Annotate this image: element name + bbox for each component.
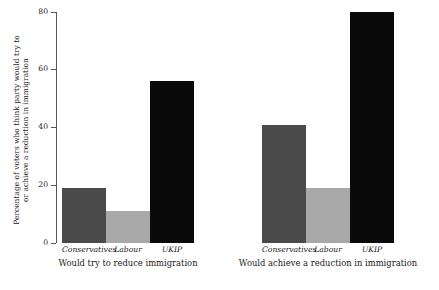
y-axis-tick-label: 60: [38, 64, 48, 73]
bar-ukip-group-2: [350, 12, 394, 243]
y-axis-tick: 40: [51, 127, 56, 128]
x-tick-label-labour-group-1: Labour: [106, 245, 150, 254]
bar-conservatives-group-2: [262, 125, 306, 243]
y-axis-tick-label: 40: [38, 122, 48, 131]
y-axis-title-line-1: Percentage of voters who think party wou…: [12, 35, 21, 224]
group-caption-1: Would try to reduce immigration: [38, 258, 218, 268]
x-tick-label-conservatives-group-1: Conservatives: [62, 245, 106, 254]
group-caption-2: Would achieve a reduction in immigration: [238, 258, 418, 268]
x-tick-label-ukip-group-1: UKIP: [150, 245, 194, 254]
bar-labour-group-1: [106, 211, 150, 243]
y-axis-tick-label: 80: [38, 7, 48, 16]
y-axis-tick: 60: [51, 69, 56, 70]
x-tick-label-ukip-group-2: UKIP: [350, 245, 394, 254]
bar-labour-group-2: [306, 188, 350, 243]
y-axis-tick: 20: [51, 185, 56, 186]
plot-area: [57, 12, 435, 243]
y-axis-tick: 80: [51, 12, 56, 13]
y-axis-title-line-2: or achieve a reduction in immigration: [21, 58, 30, 202]
bar-conservatives-group-1: [62, 188, 106, 243]
y-axis-tick-label: 20: [38, 180, 48, 189]
x-tick-label-labour-group-2: Labour: [306, 245, 350, 254]
bar-ukip-group-1: [150, 81, 194, 243]
x-tick-label-conservatives-group-2: Conservatives: [262, 245, 306, 254]
y-axis-title: Percentage of voters who think party wou…: [7, 20, 35, 240]
y-axis-tick-label: 0: [43, 238, 48, 247]
y-axis-tick: 0: [51, 243, 56, 244]
bar-chart: Percentage of voters who think party wou…: [0, 0, 439, 290]
